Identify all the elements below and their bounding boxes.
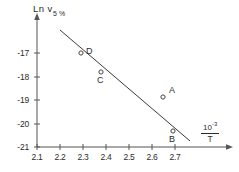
data-markers [79, 51, 175, 133]
y-axis-title-main: Ln v [33, 3, 53, 14]
x-tick-label: 2.6 [141, 152, 163, 162]
x-tick-label: 2.5 [118, 152, 140, 162]
data-point-label-a: A [169, 85, 175, 95]
data-point-c [99, 70, 103, 74]
y-axis-title-subscript: 5 % [53, 10, 65, 17]
x-tick-label: 2.3 [72, 152, 94, 162]
x-axis-title-numerator: 10-3 [201, 119, 219, 133]
x-tick-label: 2.2 [49, 152, 71, 162]
y-tick-label: -18 [7, 72, 29, 82]
data-point-label-d: D [86, 46, 93, 56]
x-axis-title-denominator: T [201, 134, 219, 145]
data-point-d [79, 51, 83, 55]
data-point-label-c: C [97, 75, 104, 85]
x-axis [37, 144, 233, 150]
y-tick-label: -21 [7, 142, 29, 152]
data-point-label-b: B [169, 134, 175, 144]
x-axis-title-base: 10 [203, 123, 212, 132]
data-point-a [161, 95, 165, 99]
y-tick-label: -17 [7, 48, 29, 58]
x-tick-label: 2.7 [164, 152, 186, 162]
y-axis-title: Ln v 5 % [33, 3, 65, 14]
y-tick-label: -19 [7, 95, 29, 105]
data-point-b [171, 129, 175, 133]
y-tick-label: -20 [7, 119, 29, 129]
x-axis-title-exponent: -3 [212, 121, 217, 127]
x-tick-label: 2.1 [26, 152, 48, 162]
chart-container: Ln v 5 % 10-3 T -17 -18 -19 -20 -21 2.1 … [0, 0, 239, 172]
y-axis [34, 13, 40, 147]
x-axis-title: 10-3 T [201, 119, 219, 145]
chart-plot-area [0, 0, 239, 172]
x-tick-label: 2.4 [95, 152, 117, 162]
